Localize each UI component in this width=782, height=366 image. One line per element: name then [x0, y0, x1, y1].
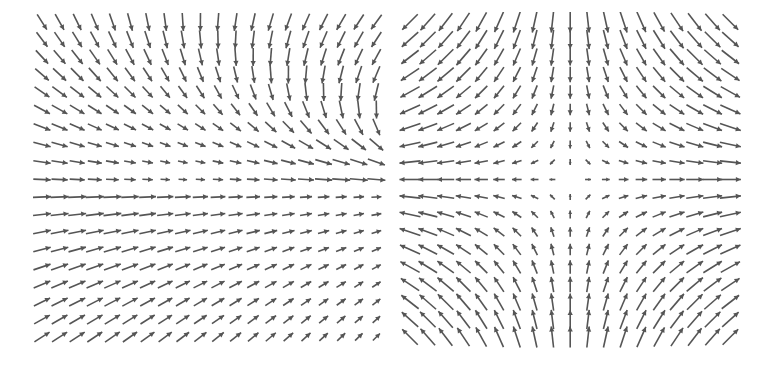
arrow-head [359, 194, 364, 199]
arrow-head [531, 327, 536, 332]
arrow-head [198, 26, 203, 31]
arrow-head [586, 260, 591, 265]
arrow-head [377, 194, 382, 199]
arrow-head [183, 177, 187, 181]
arrow-head [236, 160, 241, 165]
arrow-head [151, 194, 156, 199]
arrow-head [456, 177, 461, 182]
arrow-head [680, 177, 685, 182]
arrow-head [327, 177, 332, 182]
arrow-head [342, 194, 347, 199]
arrow-head [185, 229, 190, 234]
arrow-head [568, 110, 573, 115]
arrow-head [98, 229, 103, 234]
arrow-head [418, 177, 423, 182]
arrow-head [586, 93, 591, 98]
arrow-head [400, 177, 405, 182]
arrow-head [218, 160, 223, 165]
arrow-head [46, 177, 51, 182]
arrow-head [199, 60, 204, 65]
arrow-head [605, 327, 610, 332]
arrow-head [272, 177, 277, 182]
arrow-head [549, 93, 554, 98]
arrow-head [400, 211, 405, 216]
arrow-head [568, 310, 573, 315]
arrow-head [63, 194, 68, 199]
arrow-head [568, 293, 573, 298]
arrow-head [220, 229, 225, 234]
arrow-head [549, 260, 554, 265]
arrow-head [606, 178, 610, 182]
arrow-head [568, 145, 572, 149]
arrow-head [148, 142, 154, 147]
arrow-head [605, 27, 610, 32]
arrow-head [146, 25, 151, 30]
arrow-head [272, 194, 277, 199]
arrow-head [203, 194, 208, 199]
arrow-head [168, 194, 173, 199]
arrow-head [475, 160, 480, 165]
left-vector-field [30, 12, 390, 348]
arrow-head [568, 260, 573, 265]
arrow-head [338, 96, 343, 101]
arrow-head [303, 78, 308, 83]
arrow-head [736, 177, 741, 182]
arrow-head [568, 127, 573, 131]
arrow-head [116, 229, 121, 234]
arrow-head [116, 194, 121, 199]
arrow-head [307, 194, 312, 199]
arrow-head [236, 177, 241, 182]
arrow-head [166, 177, 170, 182]
arrow-head [198, 43, 203, 48]
arrow-head [238, 194, 243, 199]
arrow-head [291, 177, 296, 182]
arrow-head [363, 177, 368, 182]
arrow-head [568, 327, 573, 332]
arrow-head [660, 160, 665, 165]
arrow-head [80, 177, 85, 182]
arrow-head [698, 177, 703, 182]
arrow-head [220, 194, 225, 199]
arrow-head [642, 177, 647, 182]
arrow-head [218, 177, 223, 182]
arrow-head [660, 194, 665, 199]
arrow-head [568, 44, 573, 49]
arrow-head [588, 178, 591, 181]
arrow-head [321, 96, 326, 101]
arrow-head [568, 211, 572, 215]
arrow-head [254, 177, 259, 182]
arrow-head [215, 43, 220, 48]
arrow-head [512, 177, 516, 182]
arrow-head [63, 177, 68, 182]
arrow-head [374, 113, 379, 118]
arrow-head [568, 244, 573, 249]
arrow-head [475, 194, 480, 199]
arrow-head [254, 160, 259, 165]
arrow-head [735, 211, 740, 216]
arrow-head [255, 194, 260, 199]
arrow-head [380, 177, 385, 182]
arrow-head [568, 227, 573, 231]
arrow-head [45, 263, 51, 268]
arrow-head [661, 177, 666, 182]
arrow-head [437, 177, 442, 182]
arrow-head [250, 25, 255, 30]
arrow-head [345, 177, 350, 182]
arrow-head [186, 194, 191, 199]
arrow-head [549, 178, 552, 181]
left-quiver-plot [30, 12, 390, 348]
arrow-head [339, 113, 344, 118]
arrow-head [568, 277, 573, 282]
arrow-head [531, 178, 535, 182]
arrow-head [286, 78, 291, 83]
arrow-head [97, 177, 102, 182]
arrow-head [269, 78, 274, 83]
arrow-head [290, 194, 295, 199]
arrow-head [493, 177, 498, 182]
arrow-head [309, 177, 314, 182]
arrow-head [131, 177, 136, 182]
arrow-head [180, 26, 185, 31]
arrow-head [233, 43, 238, 48]
arrow-head [474, 177, 479, 182]
arrow-head [134, 194, 139, 199]
